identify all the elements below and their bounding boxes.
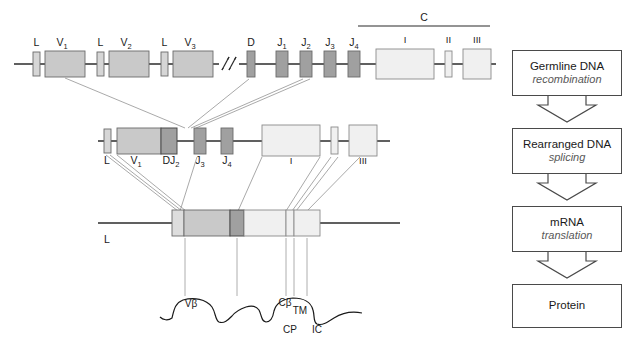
protein-label-cp: CP	[283, 324, 297, 335]
rearranged-segment-L	[104, 129, 111, 153]
recombination-connectors	[65, 78, 310, 128]
germline-segment-J2	[300, 51, 312, 77]
germline-label-L1: L	[34, 36, 40, 48]
germline-segment-V1	[45, 51, 85, 77]
flow-arrow-splicing	[538, 173, 596, 200]
germline-segment-L1	[33, 52, 40, 76]
germline-label-L2: L	[98, 36, 104, 48]
germline-break-symbol	[219, 57, 239, 70]
flowchart-box-rearranged: Rearranged DNA splicing	[512, 128, 622, 174]
translation-droplines	[185, 238, 307, 296]
germline-segment-C-exon-III	[463, 49, 491, 79]
rearranged-label-J4: J4	[222, 154, 231, 169]
mrna-segment-C-exon-I	[244, 210, 286, 236]
flowchart-title-rearranged: Rearranged DNA	[523, 138, 611, 152]
germline-label-C-exon-III: III	[473, 34, 481, 45]
rearranged-segment-C-exon-III	[349, 125, 377, 156]
rearranged-segment-DJ2	[161, 128, 177, 154]
rearranged-segment-J3	[194, 128, 206, 154]
rearranged-label-DJ2: DJ2	[162, 154, 179, 169]
rearranged-label-V1: V1	[130, 154, 141, 169]
c-region-label: C	[420, 11, 428, 23]
germline-segment-V2	[109, 51, 149, 77]
germline-label-L3: L	[162, 36, 168, 48]
connector-J2-to-DJ	[191, 79, 303, 128]
flowchart-process-recombination: recombination	[532, 73, 601, 86]
flow-arrow-translation	[538, 251, 596, 278]
germline-label-J1: J1	[277, 36, 286, 51]
germline-dna-row: C L V1 L V2 L V3	[14, 11, 496, 79]
germline-label-C-exon-I: I	[404, 34, 407, 45]
germline-segment-L2	[97, 52, 104, 76]
flowchart-box-germline: Germline DNA recombination	[512, 50, 622, 96]
germline-label-D: D	[247, 36, 255, 48]
mrna-segment-V	[184, 210, 230, 236]
germline-label-J4: J4	[349, 36, 358, 51]
germline-segment-C-exon-I	[376, 49, 434, 79]
germline-segment-J4	[348, 51, 360, 77]
connector-J3-to-mrna	[180, 157, 197, 211]
mrna-row: L	[98, 210, 400, 245]
germline-label-V2: V2	[120, 36, 131, 51]
germline-label-V3: V3	[184, 36, 195, 51]
connector-CII-right-to-mrna	[296, 157, 338, 211]
figure-canvas: C L V1 L V2 L V3	[0, 0, 634, 345]
flowchart-process-translation: translation	[542, 229, 593, 242]
flowchart-process-splicing: splicing	[549, 151, 586, 164]
germline-segment-V3	[173, 51, 213, 77]
rearranged-label-J3: J3	[195, 154, 204, 169]
rearranged-label-C-exon-I: I	[290, 155, 293, 166]
rearranged-segment-J4	[221, 128, 233, 154]
rearranged-label-C-exon-III: III	[359, 155, 367, 166]
protein-chain: Vβ Cβ TM CP IC	[160, 297, 362, 335]
connector-J2b-to-DJ	[196, 79, 310, 128]
germline-label-V1: V1	[56, 36, 67, 51]
protein-label-cbeta: Cβ	[279, 297, 292, 308]
flowchart-title-germline: Germline DNA	[530, 60, 604, 74]
connector-V1-to-DJ	[65, 78, 185, 128]
mrna-segment-C-exon-III	[294, 210, 320, 236]
germline-segment-J1	[276, 51, 288, 77]
rearranged-segment-C-exon-II	[331, 127, 338, 154]
germline-label-J2: J2	[301, 36, 310, 51]
germline-label-J3: J3	[325, 36, 334, 51]
connector-CII-left-to-mrna	[292, 157, 331, 211]
germline-segment-J3	[324, 51, 336, 77]
rearranged-segment-V1	[117, 128, 161, 154]
rearranged-segment-C-exon-I	[262, 125, 320, 156]
connector-D-to-DJ	[188, 79, 249, 128]
germline-segment-L3	[161, 52, 168, 76]
protein-vbeta-loop	[160, 299, 246, 323]
germline-segment-D	[247, 51, 255, 77]
protein-label-tm: TM	[293, 305, 307, 316]
germline-segment-C-exon-II	[445, 51, 452, 77]
splicing-connectors	[106, 155, 360, 211]
flowchart-box-mrna: mRNA translation	[512, 206, 622, 252]
flowchart-title-protein: Protein	[549, 299, 585, 313]
mrna-segment-DJ	[230, 210, 244, 236]
mrna-label-L: L	[104, 233, 110, 245]
flowchart-title-mrna: mRNA	[550, 216, 584, 230]
rearranged-dna-row: L V1 DJ2 J3 J4 I III	[98, 125, 390, 169]
connector-CI-left-to-mrna	[238, 157, 262, 211]
flowchart-box-protein: Protein	[512, 284, 622, 328]
mrna-segment-C-exon-II	[286, 210, 294, 236]
protein-label-ic: IC	[312, 324, 322, 335]
flow-arrow-recombination	[538, 95, 596, 122]
protein-label-vbeta: Vβ	[185, 298, 198, 309]
germline-label-C-exon-II: II	[446, 34, 451, 45]
mrna-segment-L	[172, 210, 184, 236]
